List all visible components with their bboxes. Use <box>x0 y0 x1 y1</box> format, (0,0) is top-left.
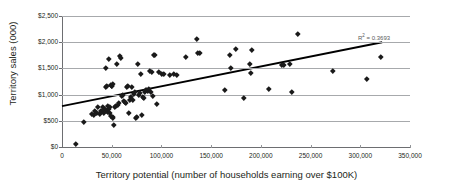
r-squared-annotation: R2 = 0.3693 <box>358 33 390 41</box>
x-tick-label: 350,000 <box>388 152 432 159</box>
x-tick-mark <box>360 145 361 148</box>
gridline-horizontal <box>62 95 410 96</box>
y-tick-label: $1,500 <box>24 64 58 71</box>
y-axis-title: Territory sales (000) <box>7 0 18 134</box>
x-axis-title: Territory potential (number of household… <box>0 169 453 180</box>
x-tick-mark <box>211 145 212 148</box>
y-tick-mark <box>59 16 62 17</box>
x-tick-mark <box>311 145 312 148</box>
y-tick-label: $2,500 <box>24 12 58 19</box>
y-tick-label: $500 <box>24 117 58 124</box>
x-tick-label: 50,000 <box>90 152 134 159</box>
y-tick-mark <box>59 68 62 69</box>
x-tick-label: 300,000 <box>338 152 382 159</box>
y-tick-mark <box>59 95 62 96</box>
x-tick-label: 0 <box>40 152 84 159</box>
y-tick-label: $2,000 <box>24 38 58 45</box>
x-tick-mark <box>161 145 162 148</box>
gridline-horizontal <box>62 68 410 69</box>
x-tick-label: 150,000 <box>189 152 233 159</box>
x-tick-mark <box>261 145 262 148</box>
x-tick-mark <box>410 145 411 148</box>
y-tick-label: $1,000 <box>24 91 58 98</box>
gridline-horizontal <box>62 121 410 122</box>
x-tick-label: 250,000 <box>289 152 333 159</box>
chart-page: Territory sales (000) $0$500$1,000$1,500… <box>0 0 453 185</box>
y-tick-mark <box>59 42 62 43</box>
y-tick-mark <box>59 147 62 148</box>
gridline-horizontal <box>62 16 410 17</box>
y-tick-label: $0 <box>24 143 58 150</box>
x-tick-mark <box>112 145 113 148</box>
x-tick-label: 200,000 <box>239 152 283 159</box>
x-tick-label: 100,000 <box>139 152 183 159</box>
gridline-horizontal <box>62 42 410 43</box>
x-axis-line <box>62 147 411 148</box>
y-tick-mark <box>59 121 62 122</box>
chart-title-sliver <box>70 0 390 5</box>
